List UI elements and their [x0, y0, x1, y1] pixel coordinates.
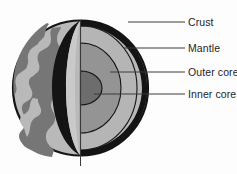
label-outer-core: Outer core — [188, 67, 237, 78]
label-crust: Crust — [188, 17, 214, 28]
label-mantle: Mantle — [188, 43, 220, 54]
label-inner-core: Inner core — [188, 89, 236, 100]
earth-structure-figure: Crust Mantle Outer core Inner core — [0, 0, 237, 174]
